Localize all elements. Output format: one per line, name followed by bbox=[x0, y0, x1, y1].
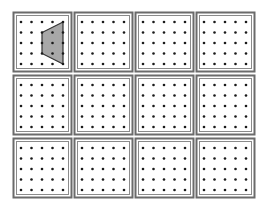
peg-dot bbox=[163, 21, 166, 24]
peg-dot bbox=[30, 52, 33, 55]
peg-dot bbox=[184, 115, 187, 118]
peg-dot bbox=[102, 94, 105, 97]
peg-dot bbox=[41, 84, 44, 87]
peg-dot bbox=[20, 21, 23, 24]
peg-dot bbox=[213, 31, 216, 34]
peg-dot bbox=[203, 63, 206, 66]
peg-dot bbox=[41, 115, 44, 118]
peg-dot bbox=[245, 21, 248, 24]
geoboard bbox=[197, 13, 255, 72]
peg-dot bbox=[234, 157, 237, 160]
peg-dot bbox=[123, 42, 126, 45]
peg-dot bbox=[184, 157, 187, 160]
peg-dot bbox=[234, 126, 237, 129]
peg-dot bbox=[102, 42, 105, 45]
peg-dot bbox=[173, 94, 176, 97]
peg-dot bbox=[224, 157, 227, 160]
peg-dot bbox=[152, 52, 155, 55]
peg-dot bbox=[51, 178, 54, 181]
peg-dot bbox=[173, 84, 176, 87]
peg-dot bbox=[152, 157, 155, 160]
peg-dot bbox=[41, 94, 44, 97]
peg-dot bbox=[123, 178, 126, 181]
peg-dot bbox=[51, 94, 54, 97]
peg-dot bbox=[62, 63, 65, 66]
peg-dot bbox=[152, 168, 155, 171]
geoboard bbox=[14, 13, 72, 72]
peg-dot bbox=[245, 126, 248, 129]
geoboard bbox=[75, 139, 133, 198]
peg-dot bbox=[30, 84, 33, 87]
peg-dot bbox=[163, 178, 166, 181]
peg-dot bbox=[30, 42, 33, 45]
peg-dot bbox=[51, 168, 54, 171]
peg-dot bbox=[123, 157, 126, 160]
peg-dot bbox=[224, 147, 227, 150]
peg-dot bbox=[152, 31, 155, 34]
peg-dot bbox=[234, 42, 237, 45]
peg-dot bbox=[152, 84, 155, 87]
peg-dot bbox=[91, 63, 94, 66]
peg-dot bbox=[81, 178, 84, 181]
peg-dot bbox=[51, 21, 54, 24]
peg-dot bbox=[41, 126, 44, 129]
peg-dot bbox=[142, 115, 145, 118]
peg-dot bbox=[102, 126, 105, 129]
peg-dot bbox=[102, 105, 105, 108]
peg-dot bbox=[81, 147, 84, 150]
peg-dot bbox=[203, 105, 206, 108]
geoboard bbox=[197, 139, 255, 198]
peg-dot bbox=[184, 189, 187, 192]
peg-dot bbox=[163, 157, 166, 160]
peg-dot bbox=[234, 115, 237, 118]
peg-dot bbox=[91, 168, 94, 171]
peg-dot bbox=[91, 21, 94, 24]
peg-dot bbox=[51, 31, 54, 34]
peg-dot bbox=[213, 42, 216, 45]
peg-dot bbox=[163, 52, 166, 55]
peg-dot bbox=[102, 147, 105, 150]
peg-dot bbox=[41, 42, 44, 45]
peg-dot bbox=[91, 42, 94, 45]
peg-dot bbox=[245, 178, 248, 181]
peg-dot bbox=[20, 126, 23, 129]
peg-dot bbox=[203, 178, 206, 181]
geoboard bbox=[75, 13, 133, 72]
peg-dot bbox=[184, 84, 187, 87]
peg-dot bbox=[102, 21, 105, 24]
peg-dot bbox=[142, 105, 145, 108]
peg-dot bbox=[203, 168, 206, 171]
peg-dot bbox=[112, 63, 115, 66]
peg-dot bbox=[234, 178, 237, 181]
peg-dot bbox=[30, 31, 33, 34]
peg-dot bbox=[51, 147, 54, 150]
peg-dot bbox=[112, 52, 115, 55]
peg-dot bbox=[51, 63, 54, 66]
peg-dot bbox=[51, 105, 54, 108]
peg-dot bbox=[30, 147, 33, 150]
peg-dot bbox=[184, 94, 187, 97]
peg-dot bbox=[91, 189, 94, 192]
peg-dot bbox=[30, 168, 33, 171]
peg-dot bbox=[123, 147, 126, 150]
peg-dot bbox=[184, 31, 187, 34]
peg-dot bbox=[203, 115, 206, 118]
peg-dot bbox=[163, 115, 166, 118]
peg-dot bbox=[41, 52, 44, 55]
peg-dot bbox=[224, 115, 227, 118]
peg-dot bbox=[91, 126, 94, 129]
peg-dot bbox=[213, 178, 216, 181]
peg-dot bbox=[245, 94, 248, 97]
peg-dot bbox=[173, 147, 176, 150]
peg-dot bbox=[224, 168, 227, 171]
peg-dot bbox=[112, 168, 115, 171]
peg-dot bbox=[102, 63, 105, 66]
peg-dot bbox=[62, 52, 65, 55]
peg-dot bbox=[224, 105, 227, 108]
peg-dot bbox=[123, 31, 126, 34]
peg-dot bbox=[112, 21, 115, 24]
peg-dot bbox=[245, 157, 248, 160]
peg-dot bbox=[234, 168, 237, 171]
peg-dot bbox=[41, 63, 44, 66]
peg-dot bbox=[30, 21, 33, 24]
